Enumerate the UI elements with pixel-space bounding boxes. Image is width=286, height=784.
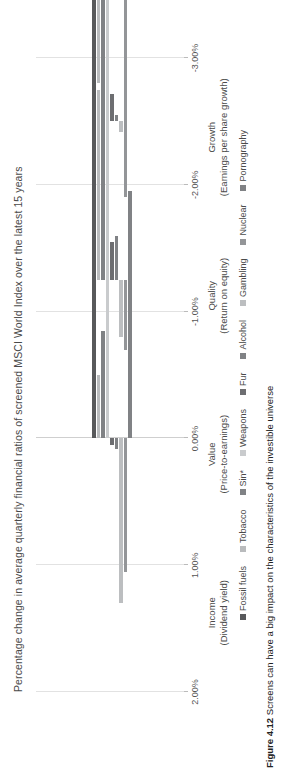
category-label-sub: (Price-to-earnings) [218,375,230,534]
axis-tick-label: -1.00% [190,297,200,326]
legend-label: Sin* [238,470,248,487]
legend-label: Fossil fuels [238,566,248,611]
legend-label: Pornography [238,130,248,182]
legend-swatch-icon [240,389,246,395]
category-label-quality: Quality(Return on equity) [206,217,236,376]
figure-caption-text: Screens can have a big impact on the cha… [264,386,275,716]
category-label-main: Income [206,597,217,628]
bar-row [124,534,128,693]
category-label-sub: (Return on equity) [218,217,230,376]
legend-swatch-icon [240,185,246,191]
category-label-main: Value [206,442,217,466]
bar-row [101,217,105,376]
bar-row [106,58,110,217]
bar-row [128,375,132,534]
bar-row [128,217,132,376]
legend-item-alcohol[interactable]: Alcohol [238,320,248,359]
axis-tick-mark [184,437,188,438]
legend-swatch-icon [240,239,246,245]
legend-label: Tobacco [238,509,248,543]
bar-group-quality [36,217,188,376]
figure-number: Figure 4.12 [264,718,275,768]
bar-row [92,217,96,376]
bar-row [101,58,105,217]
bar-row [110,58,114,217]
bar-row [119,534,123,693]
bar-row [110,375,114,534]
bar-row [97,534,101,693]
legend-item-fur[interactable]: Fur [238,373,248,396]
bar-row [128,58,132,217]
legend-item-tobacco[interactable]: Tobacco [238,509,248,552]
bar-weapons [106,0,110,147]
bar-row [119,375,123,534]
category-label-sub: (Dividend yield) [218,534,230,693]
bar-row [101,534,105,693]
category-label-income: Income(Dividend yield) [206,534,236,693]
rotated-page-wrapper: Percentage change in average quarterly f… [0,0,286,784]
legend-label: Alcohol [238,320,248,350]
legend-swatch-icon [240,450,246,456]
bar-sin- [101,0,105,121]
legend-item-nuclear[interactable]: Nuclear [238,205,248,245]
axis-tick-mark [184,57,188,58]
bar-row [97,217,101,376]
bar-group-growth [36,58,188,217]
bar-row [110,534,114,693]
chart-title: Percentage change in average quarterly f… [12,92,24,692]
axis-tick-mark [184,184,188,185]
legend-label: Weapons [238,409,248,447]
legend-label: Fur [238,373,248,387]
legend-item-gambling[interactable]: Gambling [238,259,248,307]
category-label-growth: Growth(Earnings per share growth) [206,58,236,217]
bar-row [115,217,119,376]
figure-caption: Figure 4.12 Screens can have a big impac… [264,12,275,768]
axis-tick-label: -3.00% [190,44,200,73]
figure-container: Percentage change in average quarterly f… [0,0,286,784]
axis-tick-mark [184,564,188,565]
chart-legend: Fossil fuelsTobaccoSin*WeaponsFurAlcohol… [238,58,248,692]
plot-area [36,58,188,692]
bar-row [92,375,96,534]
bar-row [115,534,119,693]
bar-row [124,375,128,534]
legend-label: Gambling [238,259,248,298]
bar-row [106,217,110,376]
axis-tick-label: -2.00% [190,171,200,200]
bar-row [115,58,119,217]
category-label-value: Value(Price-to-earnings) [206,375,236,534]
legend-swatch-icon [240,489,246,495]
category-label-main: Quality [206,281,217,311]
axis-tick-label: 0.00% [190,426,200,452]
legend-swatch-icon [240,353,246,359]
bar-row [124,58,128,217]
bar-row [97,375,101,534]
bar-row [115,375,119,534]
bar-row [119,58,123,217]
bar-row [124,217,128,376]
bar-tobacco [97,0,101,83]
category-label-sub: (Earnings per share growth) [218,58,230,217]
legend-item-fossil-fuels[interactable]: Fossil fuels [238,566,248,620]
bar-row [101,375,105,534]
legend-item-sin-[interactable]: Sin* [238,470,248,496]
category-label-main: Growth [206,122,217,153]
bar-group-value [36,375,188,534]
bar-group-income [36,534,188,693]
axis-tick-mark [184,311,188,312]
legend-swatch-icon [240,300,246,306]
bar-groups [36,58,188,692]
bar-row [92,534,96,693]
axis-tick-label: 1.00% [190,552,200,578]
legend-swatch-icon [240,546,246,552]
bar-row [97,58,101,217]
axis-tick-mark [184,691,188,692]
bar-row [128,534,132,693]
legend-item-weapons[interactable]: Weapons [238,409,248,456]
bar-row [92,58,96,217]
bar-row [110,217,114,376]
bar-row [119,217,123,376]
legend-swatch-icon [240,614,246,620]
legend-item-pornography[interactable]: Pornography [238,130,248,191]
bar-nuclear [124,0,128,185]
